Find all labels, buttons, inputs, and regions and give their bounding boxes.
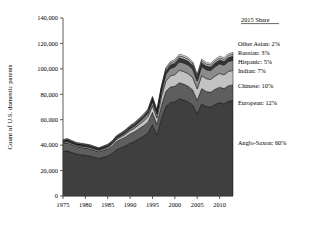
y-tick-label: 100,000 — [37, 65, 58, 72]
chart-figure: 020,00040,00060,00080,000100,000120,0001… — [0, 0, 319, 228]
y-tick-label: 140,000 — [37, 14, 58, 21]
x-tick-label: 1990 — [124, 201, 137, 208]
annotation-label-1: Russian: 3% — [238, 49, 270, 56]
y-tick-label: 20,000 — [40, 167, 58, 174]
y-tick-label: 60,000 — [40, 116, 58, 123]
y-tick-label: 40,000 — [40, 141, 58, 148]
x-tick-label: 2000 — [168, 201, 181, 208]
y-tick-label: 0 — [55, 192, 58, 199]
x-tick-label: 1975 — [57, 201, 70, 208]
annotation-header: 2015 Share — [241, 16, 270, 23]
y-tick-label: 80,000 — [40, 91, 58, 98]
y-axis-title: Count of U.S. domestic patents — [6, 64, 13, 149]
annotation-label-0: Other Asian: 2% — [238, 40, 281, 47]
x-tick-label: 1985 — [101, 201, 114, 208]
annotation-label-6: Anglo-Saxon: 60% — [238, 139, 287, 146]
x-tick-label: 2010 — [213, 201, 226, 208]
x-tick-label: 1995 — [146, 201, 159, 208]
stacked-area-chart: 020,00040,00060,00080,000100,000120,0001… — [0, 0, 319, 228]
annotation-label-2: Hispanic: 5% — [238, 58, 273, 65]
annotation-label-3: Indian: 7% — [238, 67, 267, 74]
y-tick-label: 120,000 — [37, 40, 58, 47]
x-tick-label: 2005 — [191, 201, 204, 208]
x-tick-label: 1980 — [79, 201, 92, 208]
annotation-label-5: European: 12% — [238, 99, 278, 106]
annotation-label-4: Chinese: 10% — [238, 82, 274, 89]
